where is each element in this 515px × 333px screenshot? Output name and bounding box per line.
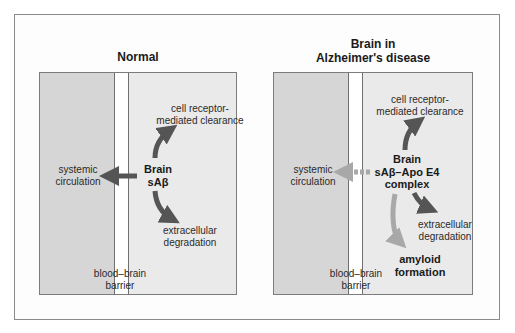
arrow-to-degradation (414, 193, 430, 209)
arrow-to-amyloid-formation (393, 194, 400, 242)
arrow-to-degradation (155, 191, 172, 219)
arrows-layer (0, 0, 515, 333)
arrow-to-clearance (155, 130, 170, 158)
arrow-to-clearance (405, 122, 418, 150)
